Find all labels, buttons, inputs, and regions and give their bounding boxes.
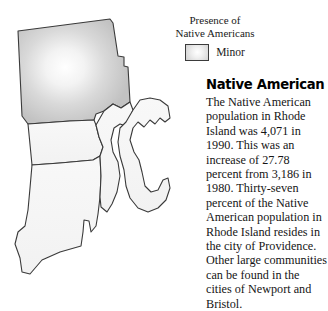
map-region-west-central-county[interactable] <box>28 120 103 165</box>
legend-item-minor[interactable]: Minor <box>150 44 280 61</box>
legend-title-line-1: Presence of <box>189 14 240 26</box>
article-panel: Native American The Native American popu… <box>206 77 328 311</box>
legend-item-label: Minor <box>216 46 245 59</box>
article-body-text: The Native American population in Rhode … <box>206 95 328 311</box>
legend-title-line-2: Native Americans <box>175 27 254 39</box>
article-heading: Native American <box>206 77 328 92</box>
legend-swatch-icon <box>185 44 209 61</box>
map-legend: Presence of Native Americans Minor <box>150 14 280 61</box>
map-region-southwest-county[interactable] <box>15 156 101 274</box>
legend-title: Presence of Native Americans <box>150 14 280 39</box>
